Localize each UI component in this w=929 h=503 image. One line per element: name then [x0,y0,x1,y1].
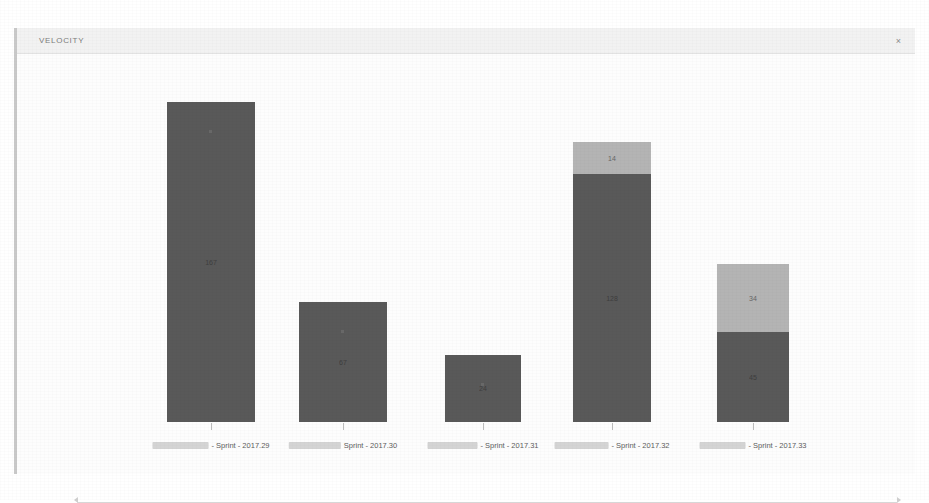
bar-top-marker [341,330,344,333]
x-axis-tick [612,423,613,430]
x-axis-category-label: - Sprint - 2017.29 [153,441,270,450]
close-icon[interactable]: × [894,36,903,45]
bar-segment-label: 34 [749,295,757,302]
bar-segment-completed[interactable]: 128 [573,174,651,422]
bar-segment-label: 128 [606,295,618,302]
x-axis-tick [483,423,484,430]
bar-segment-completed[interactable]: 67 [299,302,387,422]
bar-segment-label: 14 [608,155,616,162]
category-text: Sprint - 2017.30 [344,441,397,450]
velocity-chart: 167 - Sprint - 2017.29 67 Sprint - 2017.… [17,54,915,474]
x-axis-category-label: - Sprint - 2017.33 [700,441,807,450]
redacted-block [555,442,609,449]
bar-group[interactable]: 34 45 [717,264,789,422]
category-text: - Sprint - 2017.32 [612,441,670,450]
bar-segment-label: 45 [749,374,757,381]
redacted-block [700,442,746,449]
bar-segment-completed[interactable]: 167 [167,102,255,422]
bar-segment-label: 24 [479,385,487,392]
bar-group[interactable]: 14 128 [573,142,651,422]
x-axis-category-label: - Sprint - 2017.31 [428,441,539,450]
redacted-block [428,442,478,449]
bar-group[interactable]: 167 [167,102,255,422]
redacted-block [289,442,341,449]
bar-group[interactable]: 24 [445,355,521,422]
axis-arrow-right-icon [897,497,901,503]
x-axis-tick [753,423,754,430]
bar-series-container: 167 - Sprint - 2017.29 67 Sprint - 2017.… [17,54,915,474]
bar-segment-completed[interactable]: 24 [445,355,521,422]
panel-header: VELOCITY × [17,28,915,54]
bar-segment-label: 67 [339,359,347,366]
category-text: - Sprint - 2017.33 [749,441,807,450]
x-axis-category-label: Sprint - 2017.30 [289,441,397,450]
bar-segment-remaining[interactable]: 14 [573,142,651,174]
bar-top-marker [481,383,484,386]
redacted-block [153,442,209,449]
x-axis-tick [343,423,344,430]
bar-top-marker [209,130,212,133]
x-axis-tick [211,423,212,430]
page-title: VELOCITY [17,36,84,45]
bar-segment-label: 167 [205,259,217,266]
x-axis-category-label: - Sprint - 2017.32 [555,441,670,450]
category-text: - Sprint - 2017.29 [212,441,270,450]
category-text: - Sprint - 2017.31 [481,441,539,450]
bar-group[interactable]: 67 [299,302,387,422]
bar-segment-remaining[interactable]: 34 [717,264,789,332]
bar-segment-completed[interactable]: 45 [717,332,789,422]
